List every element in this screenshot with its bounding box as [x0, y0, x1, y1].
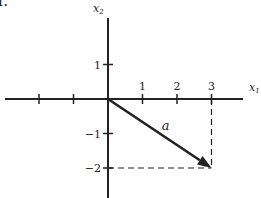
coordinate-plane: x1 x2 123 1−1−2 a: [0, 0, 261, 198]
problem-number: 1.: [0, 0, 7, 9]
x-tick-label: 2: [174, 80, 181, 93]
y-axis-label: x2: [93, 2, 104, 16]
x-ticks: 123: [39, 80, 215, 104]
vector-arrowhead: [197, 156, 211, 168]
vector-label: a: [162, 118, 170, 133]
x-tick-label: 1: [139, 80, 146, 93]
diagram: 1. x1 x2 123 1−1−2 a: [0, 0, 261, 198]
y-tick-label: 1: [94, 59, 101, 72]
vector-shaft: [108, 99, 200, 160]
y-tick-label: −2: [85, 162, 101, 175]
x-tick-label: 3: [208, 80, 215, 93]
axes: x1 x2: [5, 2, 260, 198]
y-tick-label: −1: [85, 128, 101, 141]
vector-a: a: [108, 99, 212, 168]
x-axis-label: x1: [249, 81, 260, 95]
